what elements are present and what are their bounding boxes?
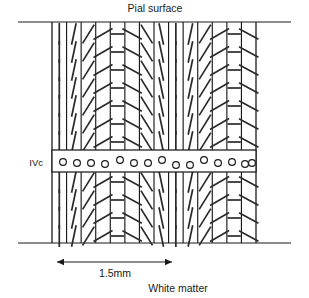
ivc-blob-circle (102, 161, 109, 168)
orientation-columns-diagram: Pial surface IVc 1.5mm White matter (0, 0, 309, 298)
ivc-layer-label: IVc (29, 157, 43, 168)
ivc-blob-circle (60, 159, 67, 166)
ivc-blob-circle (173, 162, 180, 169)
ivc-blob-circle (215, 160, 222, 167)
ivc-band-rect (52, 150, 256, 172)
ivc-blob-circle (159, 157, 166, 164)
ivc-blob-circle (145, 160, 152, 167)
ivc-blob-circle (88, 160, 95, 167)
ivc-blob-circle (249, 160, 256, 167)
white-matter-label: White matter (148, 282, 208, 294)
ivc-blob-circle (229, 159, 236, 166)
ivc-blob-circle (242, 161, 249, 168)
ivc-blob-circle (131, 160, 138, 167)
ivc-blob-circle (187, 162, 194, 169)
ivc-band-group (52, 150, 256, 172)
ivc-blob-circle (74, 160, 81, 167)
scale-bar-label: 1.5mm (99, 267, 131, 279)
ivc-blob-circle (117, 157, 124, 164)
ivc-blob-circle (201, 157, 208, 164)
figure-root: Pial surface IVc 1.5mm White matter (0, 0, 309, 298)
pial-surface-label: Pial surface (128, 2, 183, 14)
